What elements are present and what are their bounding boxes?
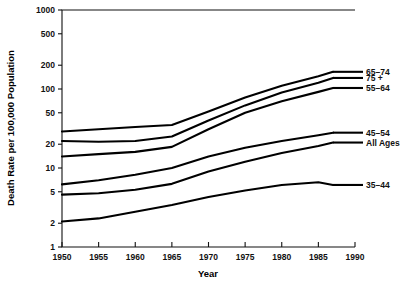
x-tick-label: 1990 (346, 252, 365, 262)
y-tick-label: 5 (50, 187, 55, 197)
y-tick-label: 100 (41, 84, 55, 94)
x-tick-label: 1955 (89, 252, 108, 262)
series-label: 35–44 (366, 180, 390, 190)
y-tick-label: 2 (50, 218, 55, 228)
series-label: 45–54 (366, 128, 390, 138)
x-tick-label: 1980 (272, 252, 291, 262)
y-tick-label: 1000 (36, 5, 55, 15)
x-tick-label: 1950 (53, 252, 72, 262)
x-tick-label: 1965 (162, 252, 181, 262)
mortality-line-chart: 1251020501002005001000 19501955196019651… (0, 0, 417, 284)
y-tick-label: 10 (46, 163, 56, 173)
x-tick-label: 1985 (309, 252, 328, 262)
chart-canvas: 1251020501002005001000 19501955196019651… (0, 0, 417, 284)
y-tick-label: 50 (46, 108, 56, 118)
series-label: 75 + (366, 73, 383, 83)
y-axis-title: Death Rate per 100,000 Population (5, 50, 16, 206)
x-axis-title: Year (198, 268, 218, 279)
series-label: 55–64 (366, 83, 390, 93)
x-tick-label: 1970 (199, 252, 218, 262)
y-tick-label: 200 (41, 60, 55, 70)
series-label: All Ages (366, 138, 400, 148)
y-tick-label: 1 (50, 242, 55, 252)
x-tick-label: 1960 (126, 252, 145, 262)
y-tick-label: 500 (41, 29, 55, 39)
x-tick-label: 1975 (236, 252, 255, 262)
y-tick-label: 20 (46, 139, 56, 149)
